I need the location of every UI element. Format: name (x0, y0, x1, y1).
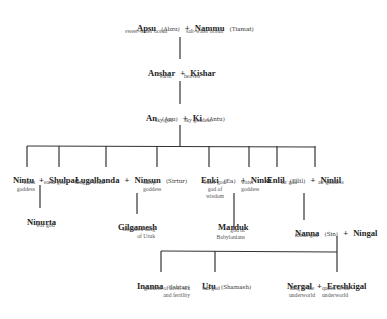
tree-connectors (0, 0, 387, 319)
desc-ninki: water goddess (241, 179, 259, 193)
deity-alt-utu: (Shamash) (221, 284, 251, 290)
desc-ninlil: air goddess (318, 179, 344, 186)
desc-enlil: air god (281, 179, 297, 186)
deity-alt-nammu: (Tiamat) (230, 26, 254, 32)
desc-enki: water god/ god of wisdom (197, 179, 233, 200)
desc-nanna: moon god (295, 232, 318, 239)
desc-shulpae: earth god (44, 179, 65, 186)
desc-nintu: earth goddess (13, 179, 35, 193)
desc-anshar: earth (160, 73, 171, 80)
desc-kishar: heaven (184, 73, 200, 80)
deity-alt-nanna: (Sin) (324, 231, 338, 237)
desc-lugalbanda: king of Uruk (75, 179, 104, 186)
desc-ki: sky goddess (184, 117, 212, 124)
desc-nergal: king of the underworld (284, 285, 320, 299)
desc-gilgamesh: shepherd-king of Uruk (108, 226, 155, 240)
desc-an: sky god (155, 117, 173, 124)
deity-name-ningal: Ningal (353, 228, 377, 238)
desc-ninsun: sheep goddess (143, 179, 161, 193)
lower-generation-bar (161, 251, 337, 252)
desc-utu: sun god (202, 285, 220, 292)
desc-ninurta: war god (36, 222, 54, 229)
plus-sign: + (343, 228, 348, 238)
couple-anshar-kishar: Anshar + Kishar (148, 61, 216, 80)
plus-sign: + (125, 175, 130, 185)
generation-bar (27, 146, 315, 147)
desc-apsu: sweet-water ocean (125, 28, 167, 35)
desc-inanna: goddess of love, sex and fertility (132, 285, 190, 299)
desc-nammu: salt-water ocean (186, 28, 223, 35)
desc-marduk: god of Babylonians (208, 227, 245, 241)
desc-ereshkigal: queen of the underworld (322, 285, 350, 299)
deity-alt-ninsun: (Sirtur) (166, 178, 187, 184)
plus-sign: + (310, 175, 315, 185)
